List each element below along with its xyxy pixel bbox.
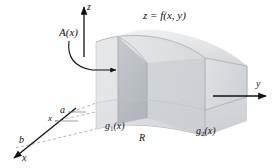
axis-label-y: y	[256, 79, 260, 89]
figure-canvas: z y x a x b A(x) z = f(x, y) g1(x) g2(x)…	[0, 0, 280, 168]
region-label-R: R	[139, 133, 145, 143]
dashed-a-to-region	[72, 103, 96, 112]
surface-equation-label: z = f(x, y)	[143, 10, 186, 21]
curve-label-g2-arg: (x)	[205, 125, 216, 136]
hidden-edges	[16, 103, 96, 148]
limit-label-b: b	[19, 135, 24, 145]
curve-label-g2: g2(x)	[196, 126, 216, 138]
curve-label-g1: g1(x)	[105, 121, 125, 133]
limit-label-a: a	[60, 105, 65, 115]
x-axis	[14, 108, 76, 158]
curve-label-g1-arg: (x)	[114, 120, 125, 131]
cross-section-area-label: A(x)	[59, 27, 78, 38]
dashed-b-to-region	[16, 129, 96, 148]
axis-label-z: z	[87, 2, 91, 12]
axis-label-x: x	[22, 153, 26, 163]
slice-position-label-x: x	[48, 114, 52, 123]
